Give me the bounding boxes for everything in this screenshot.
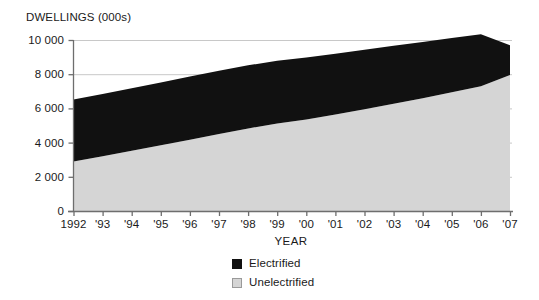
legend-item-unelectrified: Unelectrified xyxy=(232,275,314,290)
stacked-area-chart: DWELLINGS (000s) 02 0004 0006 0008 00010… xyxy=(0,0,539,300)
legend-label-electrified: Electrified xyxy=(249,258,301,270)
y-axis-tick-label: 10 000 xyxy=(8,34,64,46)
legend-swatch-unelectrified xyxy=(232,278,242,288)
legend-swatch-electrified xyxy=(232,259,242,269)
y-axis-tick-label: 8 000 xyxy=(8,68,64,80)
y-axis-tick-label: 2 000 xyxy=(8,171,64,183)
y-axis-tick-label: 6 000 xyxy=(8,102,64,114)
legend-item-electrified: Electrified xyxy=(232,256,314,271)
y-axis-tick-label: 0 xyxy=(8,205,64,217)
y-axis-tick-label: 4 000 xyxy=(8,137,64,149)
legend-label-unelectrified: Unelectrified xyxy=(249,277,314,289)
x-axis-title: YEAR xyxy=(275,235,308,247)
x-axis-tick-label: '07 xyxy=(490,218,530,230)
chart-legend: Electrified Unelectrified xyxy=(232,256,314,294)
chart-plot-area xyxy=(0,0,539,300)
